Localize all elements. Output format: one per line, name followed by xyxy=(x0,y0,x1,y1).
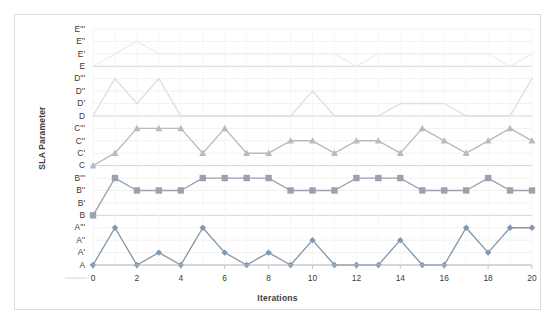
y-tick-label: A''' xyxy=(75,222,86,232)
x-tick-label: 12 xyxy=(352,273,362,283)
data-point-marker xyxy=(265,175,271,181)
gridlines xyxy=(65,29,532,278)
data-point-marker xyxy=(156,187,162,193)
y-tick-label: B' xyxy=(78,198,86,208)
x-tick-label: 20 xyxy=(527,273,537,283)
y-tick-label: B''' xyxy=(75,173,86,183)
chart-container: AA'A''A'''BB'B''B'''CC'C''C'''DD'D''D'''… xyxy=(0,0,555,322)
x-tick-label: 2 xyxy=(135,273,140,283)
x-tick-label: 6 xyxy=(222,273,227,283)
y-tick-label: E xyxy=(79,61,85,71)
data-point-marker xyxy=(375,175,381,181)
data-point-marker xyxy=(90,212,96,218)
x-tick-label: 18 xyxy=(483,273,493,283)
x-axis-title: Iterations xyxy=(15,293,540,303)
y-tick-labels: AA'A''A'''BB'B''B'''CC'C''C'''DD'D''D'''… xyxy=(74,24,85,270)
chart-frame: AA'A''A'''BB'B''B'''CC'C''C'''DD'D''D'''… xyxy=(14,14,541,310)
data-point-marker xyxy=(112,225,118,231)
data-point-marker xyxy=(353,175,359,181)
y-tick-label: C'' xyxy=(76,136,86,146)
data-point-marker xyxy=(463,187,469,193)
y-tick-label: D'' xyxy=(76,86,86,96)
y-tick-label: A' xyxy=(78,247,86,257)
y-tick-label: B'' xyxy=(76,185,85,195)
x-tick-label: 10 xyxy=(308,273,318,283)
data-point-marker xyxy=(331,187,337,193)
x-tick-labels: 02468101214161820 xyxy=(91,273,537,283)
y-tick-label: C' xyxy=(77,148,85,158)
y-axis-title: SLA Parameter xyxy=(37,83,47,193)
data-point-marker xyxy=(463,150,470,156)
data-point-marker xyxy=(331,150,338,156)
y-tick-label: A xyxy=(79,260,85,270)
x-tick-label: 0 xyxy=(91,273,96,283)
data-point-marker xyxy=(309,187,315,193)
y-tick-label: E''' xyxy=(75,24,86,34)
data-point-marker xyxy=(222,175,228,181)
data-point-marker xyxy=(156,249,162,255)
y-tick-label: B xyxy=(79,210,85,220)
y-tick-label: C''' xyxy=(74,123,85,133)
data-point-marker xyxy=(529,225,535,231)
data-point-marker xyxy=(243,175,249,181)
data-point-marker xyxy=(441,187,447,193)
x-tick-label: 8 xyxy=(266,273,271,283)
data-point-marker xyxy=(265,249,271,255)
data-point-marker xyxy=(287,187,293,193)
y-tick-label: C xyxy=(79,160,85,170)
y-tick-label: D xyxy=(79,111,85,121)
y-tick-label: A'' xyxy=(76,235,85,245)
data-point-marker xyxy=(112,175,118,181)
data-point-marker xyxy=(419,187,425,193)
data-point-marker xyxy=(200,175,206,181)
data-point-marker xyxy=(507,187,513,193)
data-point-marker xyxy=(397,175,403,181)
y-tick-label: E'' xyxy=(76,36,85,46)
x-tick-label: 16 xyxy=(440,273,450,283)
data-point-marker xyxy=(529,187,535,193)
x-tick-label: 14 xyxy=(396,273,406,283)
y-tick-label: D''' xyxy=(74,73,85,83)
data-point-marker xyxy=(178,187,184,193)
line-chart-plot: AA'A''A'''BB'B''B'''CC'C''C'''DD'D''D'''… xyxy=(15,15,542,311)
y-tick-label: E' xyxy=(78,49,86,59)
data-point-marker xyxy=(134,187,140,193)
y-tick-label: D' xyxy=(77,98,85,108)
data-point-marker xyxy=(485,175,491,181)
x-tick-label: 4 xyxy=(178,273,183,283)
